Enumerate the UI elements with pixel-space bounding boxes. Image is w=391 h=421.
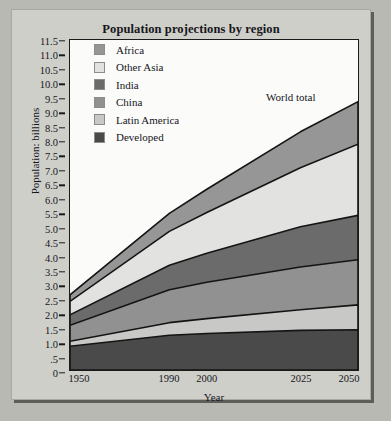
y-tick-label: 4.0 [45, 252, 58, 263]
chart-title: Population projections by region [12, 22, 370, 37]
legend-item-india[interactable]: India [94, 76, 244, 94]
y-tick-mark [59, 286, 65, 287]
legend-swatch-icon [94, 132, 105, 143]
y-tick-mark [59, 329, 65, 330]
y-tick-label: 9.0 [45, 108, 58, 119]
y-tick-label: 7.0 [45, 165, 58, 176]
y-tick-label: 11.5 [40, 36, 58, 47]
y-tick-label: 4.5 [45, 238, 58, 249]
y-tick-mark [59, 127, 65, 128]
y-tick-mark [59, 84, 65, 85]
legend-swatch-icon [94, 97, 105, 108]
y-tick-mark [59, 112, 65, 113]
y-tick-mark [59, 40, 65, 41]
x-tick-label: 1950 [69, 373, 90, 384]
y-tick-mark [59, 170, 65, 171]
legend-swatch-icon [94, 114, 105, 125]
y-tick-label: 3.5 [45, 266, 58, 277]
chart-page: Population projections by region 0.51.01… [0, 0, 391, 421]
y-tick-label: 1.0 [45, 339, 58, 350]
y-tick-mark [59, 214, 65, 215]
y-tick-label: 9.5 [45, 93, 58, 104]
y-tick-label: 3.0 [45, 281, 58, 292]
chart-panel: Population projections by region 0.51.01… [11, 9, 371, 400]
x-axis-label: Year [69, 391, 359, 403]
y-tick-label: .5 [50, 353, 58, 364]
x-tick-label: 2025 [291, 373, 312, 384]
y-tick-label: 1.5 [45, 324, 58, 335]
y-tick-mark [59, 358, 65, 359]
legend-swatch-icon [94, 79, 105, 90]
y-tick-mark [59, 242, 65, 243]
legend-item-africa[interactable]: Africa [94, 41, 244, 59]
legend-item-label: Other Asia [116, 61, 163, 73]
y-tick-mark [59, 69, 65, 70]
legend-item-china[interactable]: China [94, 94, 244, 112]
x-tick-label: 2000 [196, 373, 217, 384]
legend-item-label: India [116, 79, 139, 91]
y-tick-label: 10.5 [40, 64, 58, 75]
y-tick-mark [59, 199, 65, 200]
x-tick-label: 1990 [159, 373, 180, 384]
y-tick-mark [59, 228, 65, 229]
y-tick-mark [59, 141, 65, 142]
y-tick-mark [59, 315, 65, 316]
y-tick-mark [59, 156, 65, 157]
y-tick-mark [59, 98, 65, 99]
chart-legend: AfricaOther AsiaIndiaChinaLatin AmericaD… [94, 41, 244, 146]
legend-item-other-asia[interactable]: Other Asia [94, 59, 244, 77]
y-tick-label: 8.0 [45, 137, 58, 148]
legend-swatch-icon [94, 62, 105, 73]
y-tick-label: 5.0 [45, 223, 58, 234]
y-tick-label: 8.5 [45, 122, 58, 133]
y-tick-mark [59, 300, 65, 301]
legend-item-label: Developed [116, 131, 164, 143]
legend-item-latin-america[interactable]: Latin America [94, 111, 244, 129]
y-tick-label: 10.0 [40, 79, 58, 90]
legend-item-developed[interactable]: Developed [94, 129, 244, 147]
y-tick-mark [59, 271, 65, 272]
legend-item-label: Africa [116, 44, 144, 56]
x-axis-ticks: 19501990200020252050 [69, 373, 359, 393]
y-tick-label: 7.5 [45, 151, 58, 162]
y-axis-label: Population: billions [29, 76, 41, 226]
legend-swatch-icon [94, 44, 105, 55]
y-tick-label: 6.5 [45, 180, 58, 191]
y-tick-mark [59, 55, 65, 56]
y-tick-label: 5.5 [45, 209, 58, 220]
x-tick-label: 2050 [339, 373, 360, 384]
y-tick-label: 2.5 [45, 295, 58, 306]
y-tick-mark [59, 343, 65, 344]
y-tick-mark [59, 372, 65, 373]
legend-item-label: Latin America [116, 114, 179, 126]
world-total-annotation: World total [266, 91, 316, 103]
y-tick-label: 2.0 [45, 310, 58, 321]
legend-item-label: China [116, 96, 142, 108]
y-tick-label: 11.0 [40, 50, 58, 61]
y-tick-mark [59, 185, 65, 186]
y-tick-mark [59, 257, 65, 258]
y-tick-label: 0 [53, 368, 58, 379]
y-tick-label: 6.0 [45, 194, 58, 205]
